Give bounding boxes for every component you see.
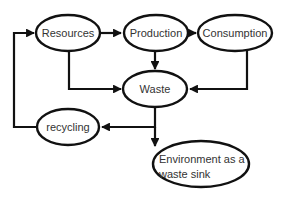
edge-waste-recycling (102, 107, 155, 127)
node-resources-label: Resources (42, 27, 95, 39)
node-production-label: Production (130, 27, 183, 39)
node-waste: Waste (123, 71, 187, 107)
node-waste-label: Waste (140, 83, 171, 95)
node-resources: Resources (36, 15, 100, 51)
flow-diagram: Resources Production Consumption Waste r… (0, 0, 297, 199)
node-environment-label-line2: waste sink (158, 168, 211, 180)
edge-recycling-resources (14, 33, 36, 127)
node-production: Production (124, 15, 188, 51)
node-recycling-label: recycling (46, 121, 89, 133)
edge-resources-waste (69, 51, 121, 89)
node-recycling: recycling (37, 109, 99, 145)
node-consumption-label: Consumption (203, 27, 268, 39)
node-environment: Environment as a waste sink (153, 141, 249, 187)
node-environment-label-line1: Environment as a (159, 153, 245, 165)
node-consumption: Consumption (198, 15, 272, 51)
edge-consumption-waste (190, 51, 247, 89)
